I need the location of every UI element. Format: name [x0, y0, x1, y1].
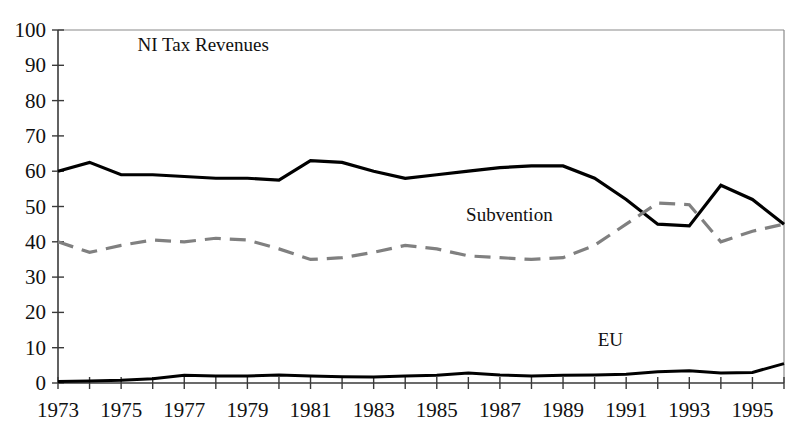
- y-tick-label: 60: [25, 159, 46, 183]
- series-label-eu: EU: [598, 329, 624, 350]
- y-tick-label: 90: [25, 53, 46, 77]
- y-tick-label: 70: [25, 124, 46, 148]
- x-tick-label: 1981: [290, 398, 332, 422]
- y-tick-label: 30: [25, 265, 46, 289]
- x-tick-label: 1979: [226, 398, 268, 422]
- y-tick-label: 10: [25, 336, 46, 360]
- x-tick-label: 1991: [605, 398, 647, 422]
- series-label-ni-tax-revenues: NI Tax Revenues: [138, 34, 269, 55]
- x-tick-label: 1993: [668, 398, 710, 422]
- series-line-eu: [58, 364, 784, 382]
- x-tick-label: 1983: [353, 398, 395, 422]
- y-tick-label: 0: [36, 371, 47, 395]
- y-tick-label: 20: [25, 300, 46, 324]
- x-tick-label: 1989: [542, 398, 584, 422]
- series-label-subvention: Subvention: [466, 204, 553, 225]
- y-tick-label: 50: [25, 195, 46, 219]
- series-layer: [58, 161, 784, 382]
- chart-frame: [58, 30, 784, 383]
- x-tick-label: 1973: [37, 398, 79, 422]
- line-chart: 0102030405060708090100 19731975197719791…: [0, 0, 807, 430]
- x-tick-label: 1975: [100, 398, 142, 422]
- y-tick-label: 80: [25, 89, 46, 113]
- x-tick-label: 1977: [163, 398, 205, 422]
- x-tick-label: 1985: [416, 398, 458, 422]
- y-axis-ticks: 0102030405060708090100: [15, 18, 65, 395]
- chart-container: 0102030405060708090100 19731975197719791…: [0, 0, 807, 430]
- y-tick-label: 40: [25, 230, 46, 254]
- series-line-subvention: [58, 203, 784, 259]
- x-tick-label: 1987: [479, 398, 521, 422]
- series-line-ni-tax-revenues: [58, 161, 784, 226]
- x-tick-label: 1995: [731, 398, 773, 422]
- y-tick-label: 100: [15, 18, 47, 42]
- series-annotations: NI Tax RevenuesSubventionEU: [138, 34, 624, 350]
